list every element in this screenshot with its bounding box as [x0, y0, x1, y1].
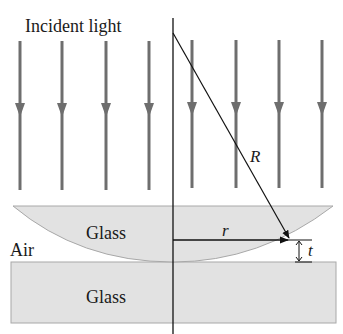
newtons-rings-diagram: Incident light R r t Air Glass Glass: [0, 0, 343, 334]
glass-plate-label: Glass: [86, 287, 126, 307]
incident-light-arrows: [20, 40, 322, 190]
incident-light-label: Incident light: [25, 16, 121, 36]
R-label: R: [249, 147, 261, 166]
air-label: Air: [10, 240, 34, 260]
glass-lens-label: Glass: [86, 223, 126, 243]
t-label: t: [308, 241, 314, 260]
r-label: r: [222, 221, 229, 240]
